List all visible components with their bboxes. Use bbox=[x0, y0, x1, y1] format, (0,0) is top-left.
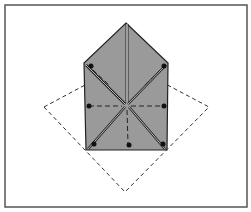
origami-diagram bbox=[0, 0, 251, 212]
